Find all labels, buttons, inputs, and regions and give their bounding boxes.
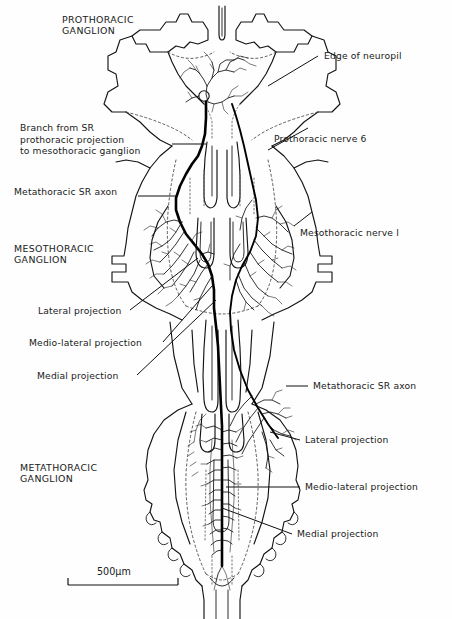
label-mesothoracic-ganglion: MESOTHORACIC GANGLION — [14, 243, 94, 266]
label-branch-from-sr: Branch from SR prothoracic projection to… — [20, 122, 140, 157]
leader-lateral-projection-meta — [270, 432, 300, 440]
anterior-connective — [219, 6, 225, 40]
prothoracic-arborization — [180, 52, 256, 114]
label-metathoracic-sr-axon-left: Metathoracic SR axon — [14, 186, 117, 198]
meso-meta-connective — [203, 320, 241, 412]
label-prothoracic-nerve-6: Prothoracic nerve 6 — [274, 133, 367, 145]
metathoracic-arborization — [188, 330, 296, 590]
label-medial-projection-meso: Medial projection — [37, 370, 119, 382]
leader-mesothoracic-nerve-1 — [294, 212, 312, 226]
label-medio-lateral-projection-meta: Medio-lateral projection — [305, 481, 418, 493]
figure-container: .out{fill:none;stroke:#141414;stroke-wid… — [0, 0, 452, 619]
label-lateral-projection-meso: Lateral projection — [38, 305, 121, 317]
leader-edge-of-neuropil — [268, 56, 318, 86]
label-mesothoracic-nerve-1: Mesothoracic nerve l — [300, 227, 399, 239]
label-medio-lateral-projection-meso: Medio-lateral projection — [29, 337, 142, 349]
pro-meso-connective — [204, 142, 240, 208]
leader-lines — [130, 56, 318, 534]
label-lateral-projection-meta: Lateral projection — [305, 434, 388, 446]
mesothoracic-ganglion-outline — [112, 146, 332, 404]
label-metathoracic-ganglion: METATHORACIC GANGLION — [20, 462, 97, 485]
label-medial-projection-meta: Medial projection — [297, 528, 379, 540]
scale-bar — [68, 578, 178, 585]
label-prothoracic-ganglion: PROTHORACIC GANGLION — [62, 14, 134, 37]
label-metathoracic-sr-axon-right: Metathoracic SR axon — [313, 380, 416, 392]
mesothoracic-arborization-right — [224, 200, 296, 316]
label-edge-of-neuropil: Edge of neuropil — [324, 50, 402, 62]
scale-bar-label: 500μm — [97, 566, 131, 577]
